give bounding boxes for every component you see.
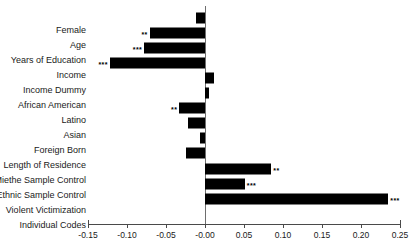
- y-axis-label: Age: [70, 40, 86, 49]
- y-axis-label: Income: [56, 70, 86, 79]
- significance-marker: **: [141, 31, 147, 38]
- y-axis-label: Female: [56, 25, 86, 34]
- x-axis-tick-label: 0.15: [314, 231, 331, 240]
- x-axis-tick-label: -0.10: [117, 231, 136, 240]
- significance-marker: **: [273, 166, 279, 173]
- significance-marker: **: [171, 106, 177, 113]
- bar: [179, 103, 205, 114]
- x-axis-tick: [283, 224, 284, 228]
- x-axis-tick: [166, 224, 167, 228]
- x-axis-tick-label: -0.15: [78, 231, 97, 240]
- x-axis-tick-label: 0.20: [353, 231, 370, 240]
- y-axis-label: Length of Residence: [3, 160, 86, 169]
- bar: [205, 163, 271, 174]
- bar: [200, 133, 205, 144]
- x-axis-tick: [400, 224, 401, 228]
- y-axis-label: Latino: [61, 115, 86, 124]
- y-axis-label: Asian: [63, 130, 86, 139]
- bar: [205, 88, 209, 99]
- bar: [144, 43, 205, 54]
- zero-reference-line: [205, 6, 206, 224]
- x-axis-tick-label: 0.10: [275, 231, 292, 240]
- x-axis-tick: [127, 224, 128, 228]
- x-axis-tick-label: -0.05: [156, 231, 175, 240]
- significance-marker: ***: [390, 196, 399, 203]
- significance-marker: ***: [98, 61, 107, 68]
- significance-marker: ***: [133, 46, 142, 53]
- x-axis-tick: [322, 224, 323, 228]
- x-axis-tick-label: 0.25: [392, 231, 409, 240]
- y-axis-label: Foreign Born: [34, 145, 86, 154]
- bar: [110, 58, 205, 69]
- x-axis-tick-label: 0.05: [236, 231, 253, 240]
- bar: [188, 118, 205, 129]
- plot-area: ******************: [88, 0, 400, 224]
- bar: [150, 28, 205, 39]
- y-axis-label: African American: [18, 100, 86, 109]
- y-axis-label: Individual Codes: [19, 221, 86, 230]
- x-axis-tick: [244, 224, 245, 228]
- y-axis-label: Years of Education: [11, 55, 86, 64]
- x-axis-tick: [205, 224, 206, 228]
- significance-marker: ***: [247, 181, 256, 188]
- bar: [205, 73, 214, 84]
- y-axis-label: Violent Victimization: [6, 206, 86, 215]
- y-axis-category-labels: FemaleAgeYears of EducationIncomeIncome …: [0, 0, 86, 251]
- x-axis-tick: [361, 224, 362, 228]
- x-axis-tick-label: -0.00: [195, 231, 214, 240]
- y-axis-label: Miethe Sample Control: [0, 176, 86, 185]
- horizontal-bar-chart: FemaleAgeYears of EducationIncomeIncome …: [0, 0, 413, 251]
- y-axis-label: Ethnic Sample Control: [0, 191, 86, 200]
- bar: [205, 193, 388, 204]
- x-axis-tick: [88, 224, 89, 228]
- y-axis-label: Income Dummy: [23, 85, 86, 94]
- bar: [205, 178, 245, 189]
- bar: [186, 148, 206, 159]
- bar: [196, 13, 205, 24]
